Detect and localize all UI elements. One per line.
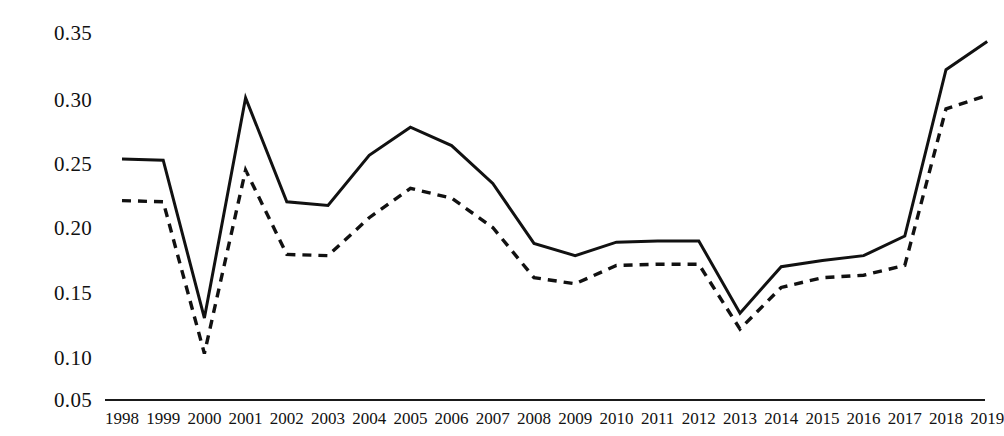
series-solid-line (122, 42, 987, 318)
line-chart: 0.050.100.150.200.250.300.35 19981999200… (0, 0, 1004, 436)
plot-area (0, 0, 1004, 436)
series-dashed-line (122, 95, 987, 353)
